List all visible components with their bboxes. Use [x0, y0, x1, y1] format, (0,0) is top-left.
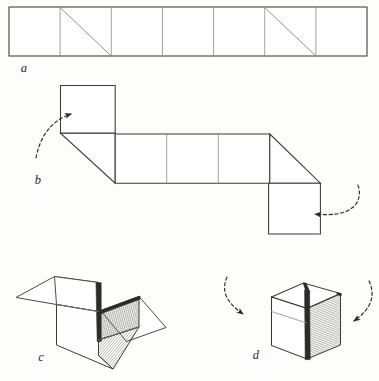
zigzag-bottom-square — [269, 183, 321, 234]
panel-d-label: d — [253, 348, 260, 362]
zigzag-left-gusset — [61, 133, 116, 183]
strip-outline — [9, 7, 367, 56]
panel-c-label: c — [38, 350, 44, 364]
panel-b-label: b — [35, 173, 41, 187]
figure-canvas: a b — [0, 0, 379, 381]
fold-down-arrow-right — [315, 185, 359, 215]
zigzag-middle-band — [115, 134, 270, 183]
panel-a-label: a — [21, 61, 27, 75]
zigzag-top-square — [61, 86, 116, 134]
panel-b-zigzag: b — [35, 86, 360, 235]
figure-root: a b — [0, 0, 379, 381]
close-arrow-left — [225, 277, 243, 314]
cube-front-seam — [305, 290, 311, 360]
close-arrow-right — [354, 281, 372, 321]
cube-left-face — [272, 297, 308, 359]
panel-d-closed-cube: d — [225, 277, 372, 362]
panel-a-flat-strip: a — [9, 7, 367, 75]
zigzag-right-gusset — [270, 134, 321, 183]
panel-c-open-box: c — [16, 277, 166, 370]
